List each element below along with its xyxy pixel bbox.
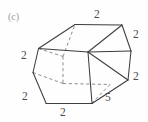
edge-top-front (39, 49, 89, 53)
edge-label-lower-right: 2 (133, 71, 139, 83)
edge-front-right-top (88, 51, 131, 52)
edge-label-bottom-right-slant: 5 (105, 92, 111, 104)
solid-edges-group (33, 25, 131, 104)
edge-label-lower-left: 2 (22, 91, 28, 103)
panel-label: (c) (8, 12, 19, 22)
hidden-edge-bottom-horizontal (63, 84, 110, 85)
edge-upper-left (39, 25, 76, 49)
edge-label-upper-right: 2 (133, 29, 139, 41)
edge-left-upper-vertical (33, 49, 39, 73)
hidden-edges-group (33, 25, 110, 104)
edge-upper-right (122, 25, 131, 51)
hidden-edge-to-top-back-left (63, 25, 75, 57)
edge-label-bottom: 2 (60, 107, 66, 119)
edge-top (75, 25, 122, 26)
edge-top-right-face (88, 25, 122, 52)
edge-front-face-left (88, 52, 92, 104)
edge-front-face-fold (88, 52, 128, 80)
edge-label-top: 2 (94, 9, 100, 21)
edge-lower-right (128, 51, 131, 80)
figure-container: (c) 2 2 2 2 2 2 5 (0, 0, 148, 122)
edge-label-upper-left: 2 (21, 50, 27, 62)
